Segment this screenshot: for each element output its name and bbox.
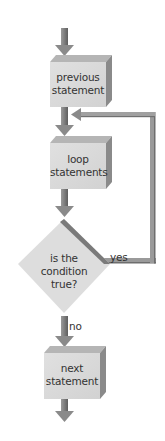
condition-line3: true? [34, 278, 94, 291]
previous-statement-label: previous statement [50, 71, 106, 97]
condition-line2: condition [34, 265, 94, 278]
previous-line2: statement [50, 84, 106, 97]
loop-statements-label: loop statements [50, 153, 106, 179]
condition-label: is the condition true? [34, 252, 94, 291]
yes-edge-label: yes [110, 251, 128, 264]
previous-line1: previous [50, 71, 106, 84]
next-line2: statement [44, 375, 100, 388]
loop-line2: statements [50, 166, 106, 179]
loop-line1: loop [50, 153, 106, 166]
entry-arrow [55, 28, 74, 56]
arrow-loop-to-condition [55, 189, 74, 217]
arrow-previous-to-loop [55, 107, 74, 136]
no-edge-label: no [69, 320, 82, 333]
condition-line1: is the [34, 252, 94, 265]
exit-arrow [55, 399, 74, 422]
next-statement-label: next statement [44, 362, 100, 388]
next-line1: next [44, 362, 100, 375]
